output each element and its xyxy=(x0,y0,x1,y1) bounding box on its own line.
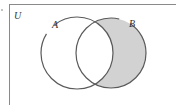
set-a-label: A xyxy=(51,19,59,30)
venn-diagram: U A B xyxy=(0,0,176,105)
set-b-label: B xyxy=(129,18,135,29)
margin-dot xyxy=(1,9,3,11)
universe-label: U xyxy=(14,10,22,21)
